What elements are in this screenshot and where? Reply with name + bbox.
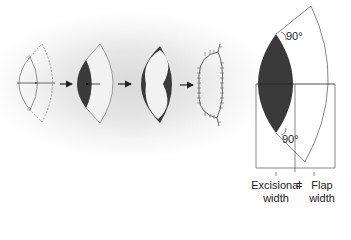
stage-3-advanced-flap <box>141 46 172 123</box>
flap-width-label: Flap width <box>305 179 339 205</box>
angle-top-label: 90° <box>286 30 303 43</box>
stage-2-excised-lens <box>77 44 113 123</box>
stage-1-planned-excision <box>17 44 55 122</box>
excisional-width-line2: width <box>248 192 304 205</box>
flap-width-line2: width <box>305 192 339 205</box>
angle-bottom-label: 90° <box>282 133 299 146</box>
stage-4-sutured-closure <box>197 44 224 126</box>
flap-width-line1: Flap <box>305 179 339 192</box>
equals-sign: = <box>296 179 302 192</box>
